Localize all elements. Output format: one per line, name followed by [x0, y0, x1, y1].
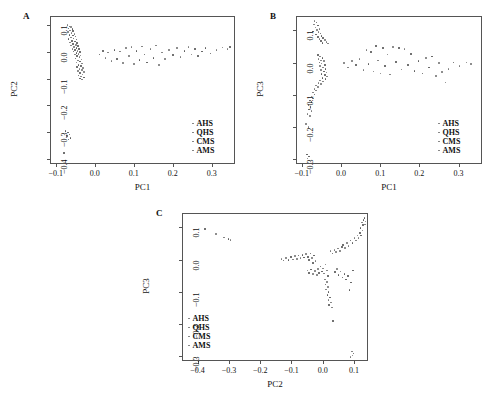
data-point: [337, 248, 339, 250]
data-point: [445, 82, 447, 84]
legend-item-ahs: AHS: [438, 119, 460, 128]
data-point: [79, 51, 81, 53]
y-tick-label: 0.1: [60, 26, 69, 46]
data-point: [122, 62, 124, 64]
data-point: [330, 302, 332, 304]
data-point: [325, 68, 327, 70]
data-point: [76, 39, 78, 41]
data-point: [312, 262, 314, 264]
data-point: [72, 35, 74, 37]
data-point: [327, 275, 329, 277]
data-point: [334, 249, 336, 251]
data-point: [184, 50, 186, 52]
panel-a: A −0.10.00.10.20.30.10.0−0.1−0.2−0.3−0.4…: [0, 0, 248, 200]
data-point: [319, 28, 321, 30]
data-point: [73, 46, 75, 48]
data-point: [318, 272, 320, 274]
data-point: [305, 253, 307, 255]
data-point: [343, 62, 345, 64]
y-tick-label: −0.1: [306, 95, 315, 115]
data-point: [322, 67, 324, 69]
y-tick-mark: [293, 127, 296, 128]
y-tick-label: −0.2: [306, 128, 315, 148]
data-point: [370, 51, 372, 53]
x-tick-mark: [459, 164, 460, 167]
data-point: [339, 250, 341, 252]
data-point: [326, 281, 328, 283]
y-tick-mark: [179, 292, 182, 293]
data-point: [353, 353, 355, 355]
legend-item-ahs: AHS: [192, 119, 214, 128]
x-tick-mark: [323, 361, 324, 364]
data-point: [70, 37, 72, 39]
data-point: [322, 77, 324, 79]
data-point: [194, 48, 196, 50]
panel-a-letter: A: [23, 11, 30, 21]
data-point: [459, 65, 461, 67]
data-point: [307, 270, 309, 272]
legend-marker-icon: [438, 132, 440, 134]
data-point: [155, 45, 157, 47]
data-point: [77, 45, 79, 47]
x-tick-label: −0.2: [246, 366, 274, 375]
legend-label: AMS: [443, 146, 461, 155]
data-point: [317, 268, 319, 270]
legend-marker-icon: [188, 327, 190, 329]
y-tick-label: 0.0: [60, 53, 69, 73]
data-point: [74, 33, 76, 35]
data-point: [428, 67, 430, 69]
data-point: [75, 58, 77, 60]
data-point: [283, 260, 285, 262]
data-point: [398, 47, 400, 49]
legend-item-qhs: QHS: [438, 128, 460, 137]
data-point: [105, 57, 107, 59]
x-tick-mark: [291, 361, 292, 364]
x-tick-label: 0.0: [309, 366, 337, 375]
x-tick-label: −0.3: [215, 366, 243, 375]
data-point: [76, 66, 78, 68]
data-point: [76, 47, 78, 49]
data-point: [222, 47, 224, 49]
data-point: [328, 304, 330, 306]
data-point: [335, 251, 337, 253]
data-point: [330, 250, 332, 252]
data-point: [79, 56, 81, 58]
legend-marker-icon: [192, 123, 194, 125]
data-point: [298, 255, 300, 257]
data-point: [227, 48, 229, 50]
data-point: [312, 273, 314, 275]
data-point: [316, 274, 318, 276]
data-point: [350, 356, 352, 358]
data-point: [347, 275, 349, 277]
data-point: [332, 253, 334, 255]
data-point: [317, 54, 319, 56]
data-point: [319, 65, 321, 67]
legend-label: QHS: [443, 128, 460, 137]
y-tick-mark: [293, 63, 296, 64]
data-point: [314, 270, 316, 272]
x-tick-mark: [260, 361, 261, 364]
data-point: [308, 156, 310, 158]
y-tick-label: −0.1: [60, 79, 69, 99]
data-point: [317, 25, 319, 27]
data-point: [366, 49, 368, 51]
data-point: [288, 259, 290, 261]
data-point: [392, 46, 394, 48]
data-point: [375, 45, 377, 47]
y-tick-mark: [47, 25, 50, 26]
y-tick-label: −0.3: [306, 160, 315, 180]
data-point: [401, 69, 403, 71]
data-point: [73, 38, 75, 40]
data-point: [360, 235, 362, 237]
panel-b: B −0.10.00.10.20.30.10.0−0.1−0.2−0.3 PC1…: [248, 0, 497, 200]
data-point: [315, 34, 317, 36]
data-point: [133, 63, 135, 65]
data-point: [315, 260, 317, 262]
data-point: [308, 272, 310, 274]
data-point: [350, 240, 352, 242]
data-point: [377, 60, 379, 62]
data-point: [351, 60, 353, 62]
data-point: [223, 237, 225, 239]
data-point: [158, 64, 160, 66]
data-point: [315, 27, 317, 29]
